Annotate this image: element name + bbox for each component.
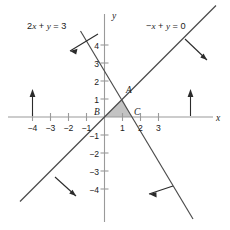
coordinate-plane-svg: −4 −3 −2 −1 1 2 3 4 3 2 1 −1 −2 −3 −4 x …: [0, 0, 230, 230]
y-tick-label--1: −1: [89, 131, 99, 141]
y-tick-label--4: −4: [89, 185, 99, 195]
x-tick-label-3: 3: [156, 123, 161, 133]
y-tick-label--2: −2: [89, 149, 99, 159]
y-tick-label--3: −3: [89, 167, 99, 177]
graph-figure: −4 −3 −2 −1 1 2 3 4 3 2 1 −1 −2 −3 −4 x …: [0, 0, 230, 230]
line-minus-x-plus-y-equals-0: [20, 6, 216, 202]
direction-arrow-line1-lower: [149, 186, 173, 194]
point-label-c: C: [134, 107, 141, 117]
direction-arrow-x-axis-right-head: [188, 89, 194, 97]
point-label-a: A: [125, 85, 132, 95]
x-tick-label--4: −4: [28, 123, 38, 133]
x-tick-label-1: 1: [120, 123, 125, 133]
x-tick-label--3: −3: [46, 123, 56, 133]
direction-arrow-x-axis-left-head: [30, 89, 36, 97]
equation-label-line1: 2x + y = 3: [27, 21, 66, 31]
eq1-rhs: = 3: [51, 21, 67, 31]
direction-arrow-line1-upper-head: [70, 49, 78, 55]
y-tick-label-3: 3: [94, 59, 99, 69]
eq2-rhs: = 0: [170, 21, 186, 31]
y-axis-label: y: [111, 11, 117, 21]
eq1-plus: +: [36, 21, 46, 31]
y-tick-label-2: 2: [94, 77, 99, 87]
equation-label-line2: −x + y = 0: [146, 21, 186, 31]
eq2-plus: +: [155, 21, 165, 31]
shaded-feasible-region: [105, 99, 132, 117]
x-tick-label-2: 2: [138, 123, 143, 133]
point-label-b: B: [94, 107, 100, 117]
y-tick-label-1: 1: [94, 95, 99, 105]
x-tick-label--2: −2: [64, 123, 74, 133]
y-tick-label-4: 4: [94, 41, 99, 51]
x-axis-label: x: [215, 113, 221, 123]
